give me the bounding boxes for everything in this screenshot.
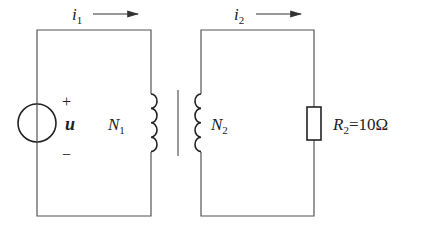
- source-voltage-label: u: [65, 114, 75, 134]
- primary-top-wire: [37, 30, 151, 104]
- i1-label: i1: [72, 5, 82, 26]
- secondary-bottom-wire: [201, 140, 314, 216]
- secondary-coil-icon: [195, 94, 201, 152]
- secondary-top-wire: [201, 30, 314, 107]
- primary-bottom-wire: [37, 142, 151, 216]
- primary-coil-icon: [151, 94, 157, 152]
- primary-circuit: [18, 30, 157, 216]
- i2-label: i2: [234, 5, 244, 26]
- n1-label: N1: [107, 115, 125, 136]
- resistor-icon: [307, 107, 321, 140]
- n2-label: N2: [210, 115, 228, 136]
- polarity-plus: +: [62, 93, 71, 110]
- r2-label: R2=10Ω: [332, 115, 388, 136]
- polarity-minus: −: [62, 146, 71, 163]
- circuit-diagram: i1 i2 + u − N1 N2 R2=10Ω: [0, 0, 423, 232]
